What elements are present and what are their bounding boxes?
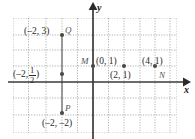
coordinate-plane-figure: (–2, 3) Q (–2, 1 2 ) P (–2, –2) M (0, 1)… xyxy=(0,0,195,139)
label-y-axis: y xyxy=(97,3,101,13)
fraction-one-half: 1 2 xyxy=(29,66,36,84)
label-p-coordinate: (–2, –2) xyxy=(42,119,72,129)
plotted-points xyxy=(60,33,157,115)
label-m-coordinate: (0, 1) xyxy=(96,57,117,67)
y-axis xyxy=(89,2,98,139)
point-m xyxy=(91,64,95,68)
label-m-name: M xyxy=(81,57,89,66)
fraction-numerator: 1 xyxy=(30,66,34,74)
label-n-name: N xyxy=(159,71,165,80)
label-q-coordinate: (–2, 3) xyxy=(24,27,49,37)
label-half-coordinate: (–2, 1 2 ) xyxy=(13,66,39,84)
point-p xyxy=(60,111,64,115)
point-two-one xyxy=(122,64,126,68)
label-two-one-coordinate: (2, 1) xyxy=(110,71,131,81)
fraction-denominator: 2 xyxy=(30,76,34,84)
label-q-name: Q xyxy=(65,26,72,35)
label-n-coordinate: (4, 1) xyxy=(142,57,163,67)
point-half xyxy=(60,72,64,76)
label-x-axis: x xyxy=(184,85,189,95)
label-half-suffix: ) xyxy=(36,70,39,80)
label-half-prefix: (–2, xyxy=(13,70,28,80)
label-p-name: P xyxy=(65,104,71,113)
point-q xyxy=(60,33,64,37)
